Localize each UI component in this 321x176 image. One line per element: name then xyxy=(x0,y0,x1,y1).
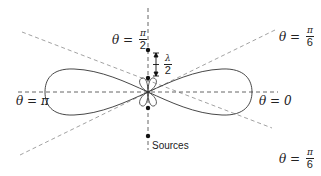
label-theta-sixth-pi-bottom: θ = π 6 xyxy=(279,148,314,171)
label-theta-pi: θ = π xyxy=(16,95,49,107)
fraction-denominator: 6 xyxy=(306,159,314,171)
label-lhs: θ = xyxy=(279,152,300,166)
source-dot xyxy=(146,76,150,80)
radiation-pattern-diagram: θ = π 2 θ = π 6 θ = π 6 θ = π θ = 0 Sour… xyxy=(0,0,321,176)
label-lambda-half: λ 2 xyxy=(162,54,172,77)
label-lhs: θ = xyxy=(112,33,133,47)
source-dot xyxy=(146,106,150,110)
label-theta-half-pi: θ = π 2 xyxy=(112,29,147,52)
label-sources: Sources xyxy=(152,140,189,151)
spacing-dimension-marker xyxy=(153,53,159,76)
label-theta-sixth-pi-top: θ = π 6 xyxy=(279,26,314,49)
source-dot xyxy=(146,134,150,138)
fraction: λ 2 xyxy=(164,54,172,77)
label-theta-zero: θ = 0 xyxy=(259,95,292,107)
label-spacing: f xyxy=(150,55,153,65)
fraction: π 2 xyxy=(139,29,147,52)
fraction: π 6 xyxy=(306,148,314,171)
fraction-denominator: 2 xyxy=(164,65,172,77)
fraction-denominator: 6 xyxy=(306,37,314,49)
fraction: π 6 xyxy=(306,26,314,49)
label-lhs: θ = xyxy=(279,30,300,44)
fraction-denominator: 2 xyxy=(139,40,147,52)
